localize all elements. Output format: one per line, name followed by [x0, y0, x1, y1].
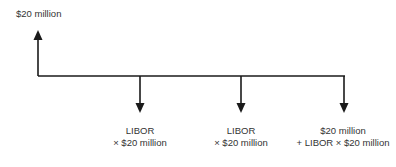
outflow-label-1: LIBOR × $20 million [100, 125, 180, 149]
outflow-label-3-line1: $20 million [290, 125, 396, 137]
outflow-label-1-line2: × $20 million [100, 137, 180, 149]
outflow-arrow-icon-1 [136, 76, 145, 113]
outflow-arrow-icon-2 [237, 76, 246, 113]
cash-flow-diagram: $20 million LIBOR × $20 million LIBOR × … [0, 0, 396, 167]
outflow-label-3: $20 million + LIBOR × $20 million [290, 125, 396, 149]
outflow-label-2-line1: LIBOR [201, 125, 281, 137]
outflow-label-1-line1: LIBOR [100, 125, 180, 137]
outflow-arrow-icon-3 [340, 76, 349, 113]
outflow-label-2-line2: × $20 million [201, 137, 281, 149]
outflow-label-3-line2: + LIBOR × $20 million [290, 137, 396, 149]
outflow-label-2: LIBOR × $20 million [201, 125, 281, 149]
inflow-arrow-icon [34, 30, 43, 76]
inflow-label: $20 million [16, 8, 61, 20]
